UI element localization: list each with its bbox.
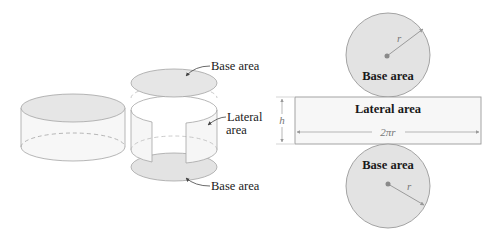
net-bottom-radius-label: r (407, 180, 412, 192)
exploded-lateral-back (131, 96, 217, 110)
cylinder-surface-area-diagram: Base area Lateral area Base area r Base … (0, 0, 498, 237)
net-lateral-label: Lateral area (355, 102, 422, 116)
exploded-lateral-label-line2: area (226, 123, 247, 137)
net-top-radius-label: r (397, 32, 402, 44)
net-top-base-label: Base area (362, 69, 414, 83)
exploded-cylinder: Base area Lateral area Base area (131, 59, 263, 193)
exploded-top-base (131, 69, 217, 97)
exploded-lateral-label-line1: Lateral (227, 110, 263, 124)
exploded-bottom-base-label: Base area (211, 179, 260, 193)
height-label: h (279, 114, 285, 126)
cylinder-net: r Base area Lateral area 2πr h r Base ar… (276, 13, 481, 228)
solid-cylinder-top (21, 94, 125, 122)
circumference-label: 2πr (380, 126, 396, 138)
net-bottom-base-label: Base area (362, 158, 414, 172)
exploded-top-base-label: Base area (211, 59, 260, 73)
exploded-lateral-right (186, 110, 217, 163)
solid-cylinder (21, 94, 125, 161)
exploded-lateral-left (131, 110, 152, 162)
